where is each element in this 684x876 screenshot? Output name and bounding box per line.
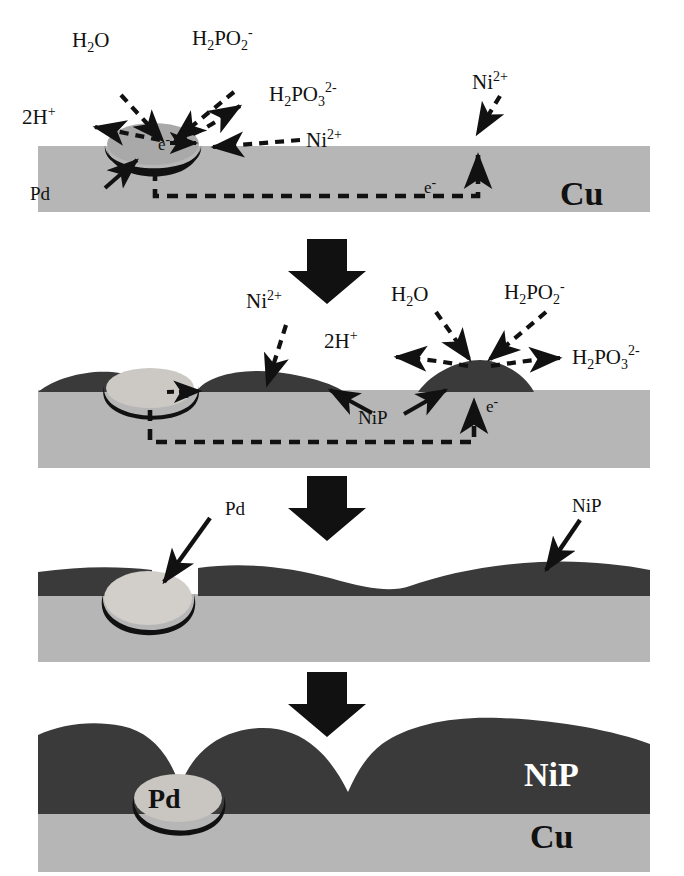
label-nip-stage-2: NiP [358, 407, 388, 428]
label-nip-stage-3: NiP [572, 495, 602, 516]
label-pd-stage-3: Pd [225, 498, 246, 519]
process-diagram-figure: H2O H2PO2- H2PO32- 2H+ Ni2+ Ni2+ Pd e- e… [0, 0, 684, 876]
label-cu-stage-4: Cu [530, 818, 573, 855]
label-cu-stage-1: Cu [560, 175, 603, 212]
diagram-canvas: H2O H2PO2- H2PO32- 2H+ Ni2+ Ni2+ Pd e- e… [0, 0, 684, 876]
label-nip-stage-4: NiP [524, 756, 579, 793]
label-pd-stage-1: Pd [30, 183, 51, 204]
label-pd-stage-4: Pd [148, 783, 181, 814]
pd-particle-stage-2 [106, 368, 194, 408]
pd-particle-stage-3 [104, 571, 192, 625]
